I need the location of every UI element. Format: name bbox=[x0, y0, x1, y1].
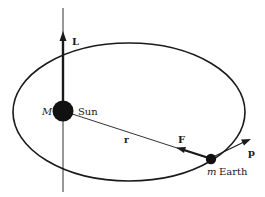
label-earth-mass: m bbox=[207, 166, 216, 177]
label-force: F bbox=[178, 134, 185, 145]
label-sun: Sun bbox=[78, 106, 98, 117]
label-radius-vector: r bbox=[124, 135, 129, 145]
sun-body bbox=[53, 101, 74, 122]
angular-momentum-arrowhead-icon bbox=[60, 31, 67, 41]
momentum-arrowhead-icon bbox=[241, 139, 251, 146]
label-angular-momentum: L bbox=[72, 36, 79, 47]
label-sun-mass: M bbox=[41, 106, 53, 117]
momentum-vector bbox=[213, 142, 244, 157]
label-momentum: p bbox=[248, 147, 255, 158]
force-vector bbox=[184, 150, 209, 158]
earth-body bbox=[206, 154, 216, 164]
label-earth: Earth bbox=[219, 166, 248, 177]
orbit-diagram: L M Sun r F p m Earth bbox=[0, 0, 265, 197]
force-arrowhead-icon bbox=[176, 147, 186, 153]
